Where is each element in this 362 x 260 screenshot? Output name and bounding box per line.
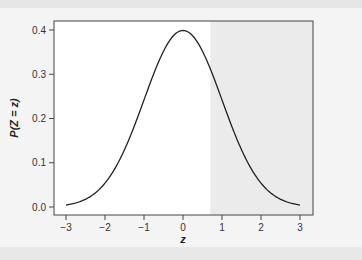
y-tick-label: 0.1 — [32, 157, 46, 168]
y-tick-label: 0.4 — [32, 25, 46, 36]
shaded-tail-region — [210, 21, 313, 215]
x-tick-label: 0 — [180, 222, 186, 233]
y-tick-label: 0.2 — [32, 113, 46, 124]
x-axis: −3−2−10123 — [60, 215, 303, 233]
y-tick-label: 0.3 — [32, 69, 46, 80]
x-tick-label: 1 — [219, 222, 225, 233]
chart-svg: −3−2−10123 0.00.10.20.30.4 z P(Z = z) — [0, 0, 362, 260]
y-axis-title: P(Z = z) — [8, 98, 20, 138]
x-tick-label: 2 — [258, 222, 264, 233]
x-tick-label: 3 — [297, 222, 303, 233]
x-tick-label: −1 — [138, 222, 150, 233]
x-tick-label: −2 — [99, 222, 111, 233]
y-tick-label: 0.0 — [32, 202, 46, 213]
x-tick-label: −3 — [60, 222, 72, 233]
y-axis: 0.00.10.20.30.4 — [32, 25, 54, 213]
x-axis-title: z — [179, 233, 186, 245]
